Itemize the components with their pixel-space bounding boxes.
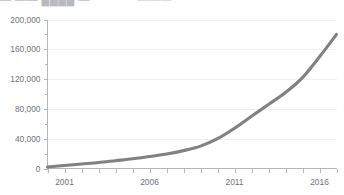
y-axis-tick-label: 0	[36, 164, 41, 174]
data-line-series-1	[48, 34, 337, 167]
x-axis-tick-label: 2001	[55, 177, 74, 187]
x-axis-tick-label: 2006	[140, 177, 159, 187]
gridlines	[48, 21, 337, 140]
y-axis-labels: 040,00080,000120,000160,000200,000	[10, 15, 41, 174]
y-axis-tick-label: 160,000	[10, 44, 41, 54]
x-axis-ticks	[49, 169, 338, 173]
y-axis-tick-label: 80,000	[15, 104, 41, 114]
x-axis-tick-label: 2016	[310, 177, 329, 187]
screenshot-root: — —— ████ — ——— 040,00080,000120,000160,…	[0, 0, 344, 195]
y-axis-ticks	[44, 21, 48, 170]
line-chart: 040,00080,000120,000160,000200,000 20012…	[0, 0, 344, 195]
x-axis-tick-label: 2011	[225, 177, 243, 187]
y-axis-tick-label: 200,000	[10, 15, 41, 25]
y-axis-tick-label: 40,000	[15, 134, 41, 144]
x-axis-labels: 2001200620112016	[55, 177, 329, 187]
y-axis-tick-label: 120,000	[10, 74, 41, 84]
chart-svg: 040,00080,000120,000160,000200,000 20012…	[0, 0, 344, 195]
